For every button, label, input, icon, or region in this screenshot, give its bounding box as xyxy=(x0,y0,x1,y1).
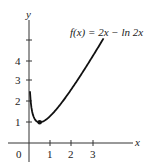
y-tick-label-3: 3 xyxy=(15,74,21,86)
x-axis-label: x xyxy=(134,136,140,148)
minimum-point xyxy=(37,120,42,125)
y-tick-label-4: 4 xyxy=(15,55,21,67)
y-axis-label: y xyxy=(25,8,31,20)
y-tick-label-1: 1 xyxy=(15,116,21,128)
x-tick-label-2: 2 xyxy=(68,148,74,160)
y-tick-label-2: 2 xyxy=(15,95,21,107)
x-tick-label-3: 3 xyxy=(90,148,96,160)
function-label: f(x) = 2x − ln 2x xyxy=(70,26,143,39)
function-curve xyxy=(30,38,104,122)
x-tick-label-1: 1 xyxy=(47,148,53,160)
origin-label: 0 xyxy=(16,148,22,160)
chart: 1 2 3 0 1 2 3 4 x y f(x) = 2x − ln 2x xyxy=(0,0,147,168)
